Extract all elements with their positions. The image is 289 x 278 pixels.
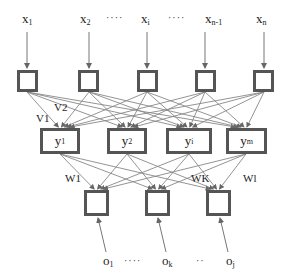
weight-label-v1: V1 bbox=[36, 112, 49, 124]
output-node-k bbox=[145, 190, 170, 216]
input-label-x2: x2 bbox=[80, 12, 91, 27]
input-node-i bbox=[137, 70, 158, 92]
hidden-node-y2: y2 bbox=[107, 128, 147, 154]
input-label-xn: xn bbox=[256, 12, 267, 27]
input-label-x1: x1 bbox=[22, 12, 33, 27]
output-label-oj: oj bbox=[226, 254, 235, 269]
input-node-n bbox=[253, 70, 274, 92]
hidden-node-yi: yi bbox=[166, 128, 212, 154]
output-node-1 bbox=[84, 190, 109, 216]
output-label-o1: o1 bbox=[103, 254, 114, 269]
weight-label-wl: Wl bbox=[243, 172, 256, 184]
neural-network-diagram: x1 x2 ···· xi ···· xn-1 xn V1 V2 y1 y2 y… bbox=[0, 0, 289, 278]
hidden-node-ym: ym bbox=[226, 128, 267, 154]
weight-label-w1: W1 bbox=[65, 172, 81, 184]
input-ellipsis: ···· bbox=[106, 12, 123, 23]
output-ellipsis-1: ···· bbox=[124, 255, 141, 266]
weight-label-v2: V2 bbox=[54, 101, 67, 113]
output-ellipsis-2: ·· bbox=[196, 255, 205, 266]
input-node-n-1 bbox=[195, 70, 216, 92]
hidden-node-y1: y1 bbox=[40, 128, 80, 154]
input-label-xn-1: xn-1 bbox=[205, 12, 222, 27]
output-label-ok: ok bbox=[162, 254, 173, 269]
input-ellipsis-2: ···· bbox=[168, 12, 185, 23]
input-node-2 bbox=[78, 70, 99, 92]
weight-label-wk: WK bbox=[191, 172, 209, 184]
input-label-xi: xi bbox=[141, 12, 150, 27]
input-node-1 bbox=[17, 70, 38, 92]
output-node-j bbox=[206, 190, 231, 216]
